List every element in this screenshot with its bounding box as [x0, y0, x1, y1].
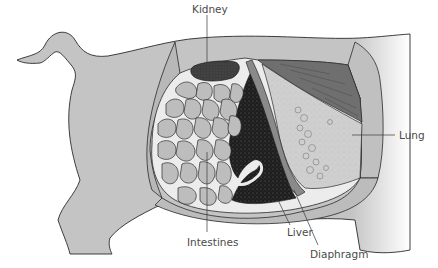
anatomy-illustration: [0, 0, 438, 268]
pig-anatomy-diagram: Kidney Lung Intestines Liver Diaphragm: [0, 0, 438, 268]
label-lung: Lung: [399, 130, 425, 141]
label-intestines: Intestines: [187, 237, 238, 248]
label-diaphragm: Diaphragm: [310, 249, 368, 260]
label-liver: Liver: [287, 227, 313, 238]
label-kidney: Kidney: [192, 4, 228, 15]
